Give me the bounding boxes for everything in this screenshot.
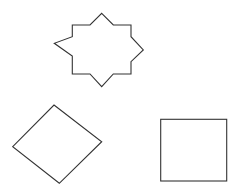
square-shape <box>161 119 227 181</box>
shapes-canvas <box>0 0 239 192</box>
star-shape <box>54 13 143 86</box>
rhombus-shape <box>13 105 102 183</box>
